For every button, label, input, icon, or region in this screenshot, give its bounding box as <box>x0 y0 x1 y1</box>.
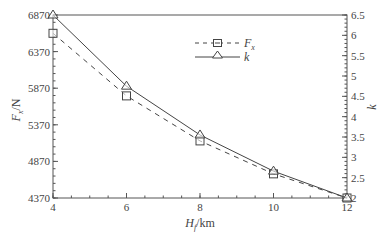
legend-triangle-marker-icon <box>213 51 223 58</box>
triangle-marker-icon <box>195 130 205 138</box>
square-marker-icon <box>49 29 57 37</box>
dual-axis-line-chart: 4681012 437048705370587063706870 22.533.… <box>0 0 385 238</box>
x-tick-label: 4 <box>50 201 56 213</box>
y2-tick-label: 4.5 <box>351 90 365 102</box>
x-tick-label: 6 <box>124 201 130 213</box>
y-axis-left-label: Fx/N <box>9 98 25 122</box>
k-series-line <box>53 15 347 198</box>
y2-tick-label: 6.5 <box>351 9 365 21</box>
y-tick-label: 6870 <box>28 9 51 21</box>
y2-tick-label: 2 <box>351 192 357 204</box>
x-axis-ticks: 4681012 <box>50 193 352 213</box>
legend: Fx k <box>195 36 255 64</box>
y-tick-label: 4370 <box>28 192 51 204</box>
x-tick-label: 8 <box>197 201 203 213</box>
x-tick-label: 10 <box>268 201 280 213</box>
y2-tick-label: 6 <box>351 29 357 41</box>
y2-tick-label: 5 <box>351 70 357 82</box>
y2-tick-label: 3.5 <box>351 131 365 143</box>
square-marker-icon <box>123 92 131 100</box>
y-tick-label: 5370 <box>28 119 51 131</box>
y2-tick-label: 3 <box>351 151 357 163</box>
plot-frame <box>53 15 347 198</box>
data-series <box>48 10 352 202</box>
y-tick-label: 4870 <box>28 155 51 167</box>
y-tick-label: 5870 <box>28 82 51 94</box>
y2-tick-label: 5.5 <box>351 50 365 62</box>
legend-k-label: k <box>244 50 250 64</box>
x-axis-label: Hf/km <box>184 216 215 232</box>
y-axis-right-label: k <box>365 104 379 110</box>
y-tick-label: 6370 <box>28 46 51 58</box>
y-axis-right-ticks: 22.533.544.555.566.5 <box>342 9 365 204</box>
y2-tick-label: 2.5 <box>351 172 365 184</box>
y2-tick-label: 4 <box>351 111 357 123</box>
